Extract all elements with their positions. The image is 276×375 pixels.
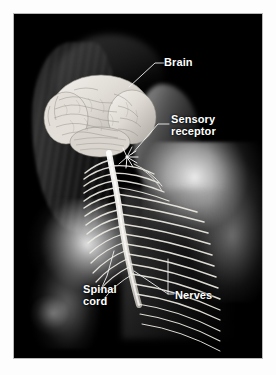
- leader-line-brain: [129, 63, 164, 87]
- brain-illustration: [44, 75, 156, 157]
- label-spinal-cord: Spinal cord: [83, 284, 117, 307]
- photograph-plate: Brain Sensory receptor Spinal cord Nerve…: [13, 13, 263, 359]
- brachial-plexus: [112, 164, 169, 201]
- label-sensory-receptor: Sensory receptor: [171, 114, 216, 137]
- label-nerves: Nerves: [175, 290, 212, 302]
- figure-page: Brain Sensory receptor Spinal cord Nerve…: [0, 0, 276, 375]
- label-brain: Brain: [164, 57, 193, 69]
- nervous-system-overlay: [14, 14, 263, 359]
